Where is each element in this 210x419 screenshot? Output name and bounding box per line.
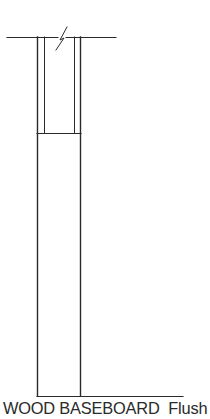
baseboard-detail-drawing [0, 0, 210, 419]
break-symbol-icon [56, 27, 67, 50]
diagram-caption: WOOD BASEBOARD Flush [3, 399, 207, 417]
